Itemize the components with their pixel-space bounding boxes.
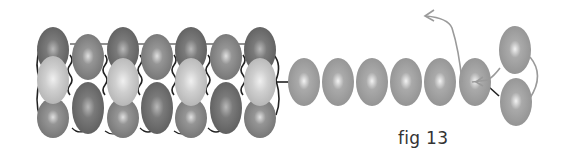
bead [141, 34, 173, 80]
end-beads [499, 26, 532, 126]
bead [141, 82, 173, 134]
figure-caption: fig 13 [398, 128, 448, 148]
bead [72, 34, 104, 80]
bead [107, 58, 139, 106]
bead [322, 58, 354, 106]
bead [244, 58, 276, 106]
bead [424, 58, 456, 106]
bead [390, 58, 422, 106]
bead [499, 26, 531, 74]
bead [500, 78, 532, 126]
bead [210, 34, 242, 80]
bead [288, 58, 320, 106]
bead [175, 58, 207, 106]
arrowhead-icon [425, 10, 434, 21]
bead [37, 56, 69, 104]
beading-diagram [0, 0, 563, 161]
bead [356, 58, 388, 106]
bead [210, 82, 242, 134]
bead [72, 82, 104, 134]
